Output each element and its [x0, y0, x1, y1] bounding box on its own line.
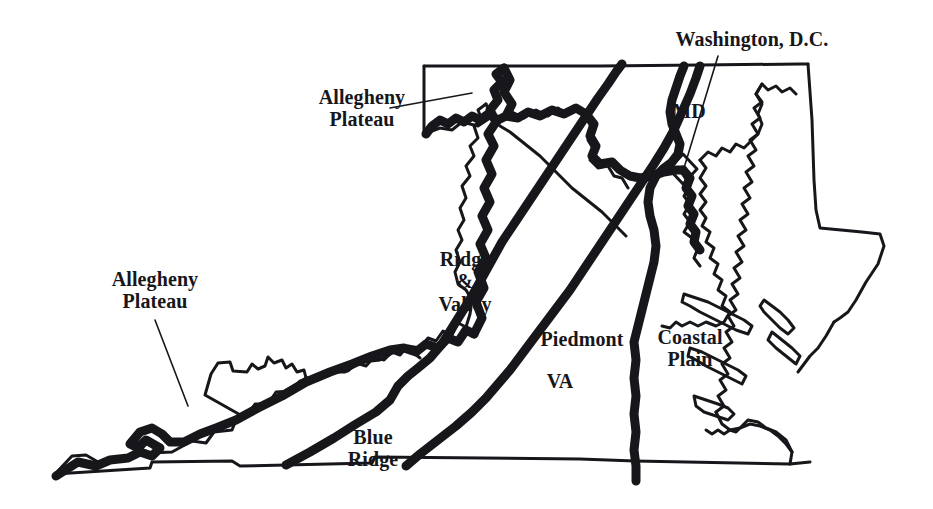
label-blue-ridge: Blue Ridge: [330, 426, 416, 471]
york-peninsula: [694, 396, 734, 420]
label-state-md: MD: [668, 100, 710, 122]
virginia-south-border: [55, 457, 810, 474]
label-washington-dc: Washington, D.C.: [668, 28, 836, 50]
label-piedmont: Piedmont: [532, 328, 632, 350]
chesapeake-bay-upper-lobe: [700, 84, 796, 160]
label-ridge-and-valley: Ridge & Valley: [420, 248, 510, 315]
label-state-va: VA: [540, 370, 580, 392]
label-allegheny-plateau-north: Allegheny Plateau: [302, 86, 422, 131]
eastern-shore-tip: [798, 322, 834, 372]
label-coastal-plain: Coastal Plain: [648, 326, 732, 371]
fall-line-bold: [634, 66, 684, 481]
label-allegheny-plateau-west: Allegheny Plateau: [92, 268, 218, 313]
west-virginia-inner-boundary: [486, 104, 626, 236]
physiographic-province-map: Allegheny Plateau Allegheny Plateau Ridg…: [0, 0, 933, 509]
eastern-shore-inlet: [768, 332, 800, 364]
delmarva-east-coast: [808, 64, 884, 322]
southeast-coast: [706, 420, 792, 464]
allegheny-plateau-west-leader: [155, 320, 188, 406]
eastern-shore-bayside: [760, 300, 794, 334]
